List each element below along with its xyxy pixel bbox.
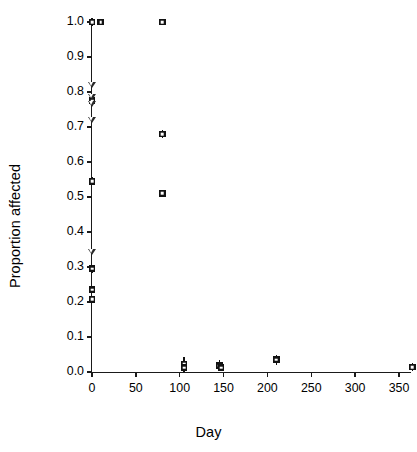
y-tick bbox=[87, 56, 92, 57]
y-tick-label: 0.0 bbox=[46, 364, 84, 378]
data-point-square bbox=[89, 286, 96, 293]
plot-area bbox=[92, 22, 399, 372]
y-tick-label: 0.1 bbox=[46, 329, 84, 343]
x-tick-label: 300 bbox=[335, 381, 375, 395]
y-tick bbox=[87, 126, 92, 127]
y-tick-label: 0.7 bbox=[46, 119, 84, 133]
y-tick-label: 0.5 bbox=[46, 189, 84, 203]
y-tick bbox=[87, 196, 92, 197]
data-point-square bbox=[273, 356, 280, 363]
scatter-chart: Proportion affected 0.00.10.20.30.40.50.… bbox=[0, 0, 417, 452]
y-tick-label: 0.6 bbox=[46, 154, 84, 168]
y-tick-label: 0.3 bbox=[46, 259, 84, 273]
x-tick-label: 100 bbox=[160, 381, 200, 395]
data-point-square bbox=[218, 364, 225, 371]
x-tick bbox=[267, 372, 268, 377]
data-point-square bbox=[89, 19, 96, 26]
x-tick bbox=[398, 372, 399, 377]
x-tick bbox=[179, 372, 180, 377]
y-tick-label: 0.2 bbox=[46, 294, 84, 308]
data-point-square bbox=[159, 190, 166, 197]
x-tick bbox=[223, 372, 224, 377]
data-point-square bbox=[89, 296, 96, 303]
y-tick-label: 0.8 bbox=[46, 84, 84, 98]
x-axis-line bbox=[91, 372, 411, 373]
x-axis-title: Day bbox=[0, 424, 417, 440]
x-tick bbox=[354, 372, 355, 377]
y-tick-label: 1.0 bbox=[46, 14, 84, 28]
data-point-square bbox=[97, 19, 104, 26]
data-point-square bbox=[89, 178, 96, 185]
x-tick-label: 0 bbox=[72, 381, 112, 395]
x-tick bbox=[91, 372, 92, 377]
x-tick-label: 250 bbox=[291, 381, 331, 395]
x-tick-label: 50 bbox=[116, 381, 156, 395]
x-tick bbox=[135, 372, 136, 377]
x-tick bbox=[311, 372, 312, 377]
x-tick-label: 150 bbox=[204, 381, 244, 395]
x-axis-title-text: Day bbox=[196, 424, 222, 440]
y-axis-title-text: Proportion affected bbox=[7, 164, 23, 288]
y-tick bbox=[87, 336, 92, 337]
data-point-square bbox=[89, 265, 96, 272]
y-tick bbox=[87, 231, 92, 232]
data-point-square bbox=[181, 364, 188, 371]
data-point-square bbox=[159, 19, 166, 26]
y-tick-label: 0.4 bbox=[46, 224, 84, 238]
x-tick-label: 200 bbox=[247, 381, 287, 395]
y-axis-title: Proportion affected bbox=[0, 0, 30, 452]
y-tick bbox=[87, 161, 92, 162]
y-tick bbox=[87, 91, 92, 92]
y-tick-label: 0.9 bbox=[46, 49, 84, 63]
data-point-square bbox=[409, 364, 416, 371]
data-point-square bbox=[159, 131, 166, 138]
x-tick-label: 350 bbox=[379, 381, 417, 395]
